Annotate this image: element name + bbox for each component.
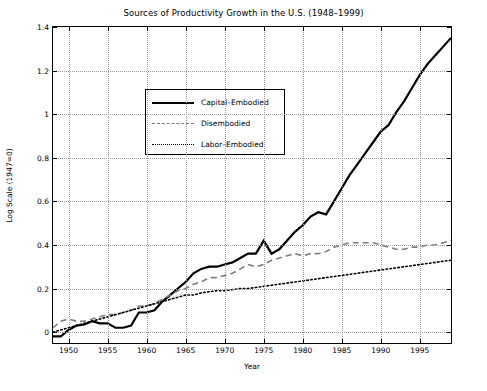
y-tickmark	[447, 71, 451, 72]
x-tick-label: 1975	[254, 346, 273, 355]
y-tickmark	[53, 158, 57, 159]
x-tick-label: 1965	[176, 346, 195, 355]
gridline-vertical	[186, 27, 187, 343]
legend-label-capital-embodied: Capital–Embodied	[201, 98, 269, 107]
legend-line-sample-dashed	[152, 117, 194, 129]
gridline-horizontal	[53, 245, 451, 246]
series-line-capital-embodied	[53, 38, 451, 337]
y-tick-label: 1.4	[37, 23, 49, 32]
legend-line-sample-dotted	[152, 138, 194, 150]
gridline-vertical	[225, 27, 226, 343]
gridline-horizontal	[53, 114, 451, 115]
x-tickmark	[381, 27, 382, 31]
y-tickmark	[53, 114, 57, 115]
y-tickmark	[447, 27, 451, 28]
y-tickmark	[447, 332, 451, 333]
gridline-vertical	[108, 27, 109, 343]
legend-line-sample-solid	[152, 96, 194, 108]
gridline-vertical	[264, 27, 265, 343]
gridline-vertical	[303, 27, 304, 343]
gridline-horizontal	[53, 158, 451, 159]
y-tick-label: 0.8	[37, 153, 49, 162]
x-tick-label: 1985	[332, 346, 351, 355]
y-tickmark	[53, 27, 57, 28]
legend-label-labor-embodied: Labor–Embodied	[201, 140, 264, 149]
x-tickmark	[342, 27, 343, 31]
gridline-vertical	[69, 27, 70, 343]
x-tickmark	[186, 27, 187, 31]
x-tickmark	[186, 339, 187, 343]
y-tick-label: 0.4	[37, 240, 49, 249]
y-tick-label: 1	[44, 110, 49, 119]
y-tickmark	[53, 201, 57, 202]
x-axis-label: Year	[52, 362, 452, 371]
y-tickmark	[447, 114, 451, 115]
x-tickmark	[381, 339, 382, 343]
gridline-vertical	[381, 27, 382, 343]
productivity-growth-chart: Sources of Productivity Growth in the U.…	[0, 0, 487, 391]
x-tick-label: 1960	[137, 346, 156, 355]
gridline-horizontal	[53, 289, 451, 290]
gridline-vertical	[342, 27, 343, 343]
y-axis-label: Log Scale (1947=0)	[2, 26, 16, 344]
x-tickmark	[264, 339, 265, 343]
y-tickmark	[53, 245, 57, 246]
x-tickmark	[225, 27, 226, 31]
x-tickmark	[420, 339, 421, 343]
y-tick-label: 0.2	[37, 284, 49, 293]
x-tick-label: 1995	[410, 346, 429, 355]
plot-lines	[53, 27, 451, 343]
x-tickmark	[69, 27, 70, 31]
gridline-horizontal	[53, 201, 451, 202]
series-line-labor-embodied	[53, 260, 451, 332]
y-tick-label: 0	[44, 328, 49, 337]
gridline-vertical	[147, 27, 148, 343]
x-tickmark	[108, 339, 109, 343]
x-tickmark	[303, 339, 304, 343]
y-tickmark	[447, 245, 451, 246]
y-axis-label-text: Log Scale (1947=0)	[5, 148, 14, 222]
chart-title: Sources of Productivity Growth in the U.…	[0, 8, 487, 18]
gridline-vertical	[420, 27, 421, 343]
x-tickmark	[420, 27, 421, 31]
y-tickmark	[53, 332, 57, 333]
x-tickmark	[264, 27, 265, 31]
x-tick-label: 1980	[293, 346, 312, 355]
y-tickmark	[447, 289, 451, 290]
y-tick-label: 1.2	[37, 66, 49, 75]
x-tickmark	[342, 339, 343, 343]
gridline-horizontal	[53, 71, 451, 72]
y-tickmark	[53, 289, 57, 290]
x-tick-label: 1970	[215, 346, 234, 355]
x-tick-label: 1955	[98, 346, 117, 355]
y-tickmark	[447, 201, 451, 202]
y-tickmark	[447, 158, 451, 159]
x-tickmark	[303, 27, 304, 31]
x-tickmark	[69, 339, 70, 343]
y-tick-label: 0.6	[37, 197, 49, 206]
gridline-horizontal	[53, 332, 451, 333]
x-tickmark	[108, 27, 109, 31]
y-tickmark	[53, 71, 57, 72]
x-tickmark	[147, 339, 148, 343]
x-tickmark	[147, 27, 148, 31]
x-tick-label: 1990	[371, 346, 390, 355]
plot-area: Capital–Embodied Disembodied Labor–Embod…	[52, 26, 452, 344]
x-tickmark	[225, 339, 226, 343]
x-tick-label: 1950	[59, 346, 78, 355]
